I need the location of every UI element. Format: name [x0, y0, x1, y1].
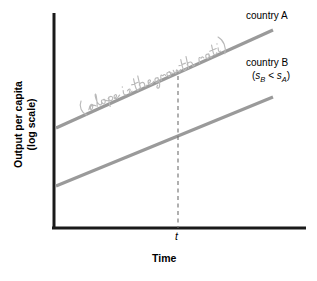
y-axis-label-line2: (log scale) [24, 55, 37, 195]
relation-symbol: < [268, 70, 274, 81]
series-label-country-b: country B [246, 57, 288, 68]
growth-model-figure: Output per capita (log scale) Time t cou… [0, 0, 317, 281]
chart-canvas [0, 0, 317, 281]
paren-close: ) [287, 70, 290, 81]
x-axis-label: Time [152, 252, 176, 264]
handwritten-growth-rate-note [75, 36, 230, 118]
x-axis-tick-label-t: t [175, 230, 178, 242]
subscript-b: B [260, 75, 265, 84]
y-axis-label-line1: Output per capita [12, 55, 25, 195]
series-line-country-b [56, 97, 273, 186]
y-axis-label: Output per capita (log scale) [12, 55, 37, 195]
series-label-country-a: country A [246, 10, 288, 21]
series-line-country-a [56, 30, 273, 128]
series-b-savings-condition: (sB < sA) [252, 70, 290, 84]
